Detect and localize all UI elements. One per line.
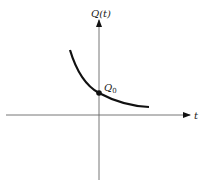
decay-graph: Q(t) t Q0 (0, 0, 209, 186)
initial-value-point (96, 90, 102, 96)
y-axis-label: Q(t) (91, 8, 111, 19)
point-label: Q0 (104, 82, 117, 95)
x-axis-label: t (194, 110, 199, 121)
decay-curve (70, 50, 149, 107)
